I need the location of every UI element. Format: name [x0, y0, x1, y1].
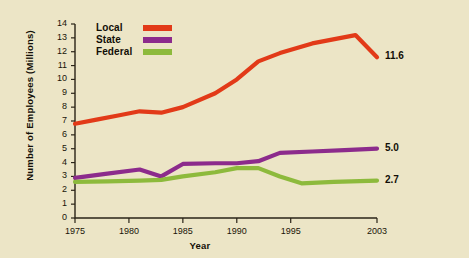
- y-tick-label: 10: [51, 73, 67, 83]
- y-tick-label: 12: [51, 46, 67, 56]
- axis-lines: [75, 24, 377, 218]
- x-tick-label: 1975: [55, 226, 95, 236]
- y-tick-label: 13: [51, 32, 67, 42]
- end-label-state: 5.0: [385, 142, 399, 153]
- y-tick-label: 3: [51, 170, 67, 180]
- chart-figure: Number of Employees (Millions) Year Loca…: [0, 0, 469, 269]
- y-tick-label: 9: [51, 87, 67, 97]
- x-tick-label: 2003: [357, 226, 397, 236]
- axis-ticks: [71, 24, 377, 223]
- y-tick-label: 11: [51, 60, 67, 70]
- x-tick-label: 1980: [109, 226, 149, 236]
- y-tick-label: 6: [51, 129, 67, 139]
- x-tick-label: 1990: [217, 226, 257, 236]
- y-tick-label: 8: [51, 101, 67, 111]
- x-tick-label: 1985: [163, 226, 203, 236]
- x-tick-label: 1995: [271, 226, 311, 236]
- end-label-local: 11.6: [385, 50, 404, 61]
- y-tick-label: 5: [51, 143, 67, 153]
- y-tick-label: 14: [51, 18, 67, 28]
- y-tick-label: 1: [51, 198, 67, 208]
- y-tick-label: 4: [51, 157, 67, 167]
- y-tick-label: 7: [51, 115, 67, 125]
- end-label-federal: 2.7: [385, 174, 399, 185]
- y-tick-label: 0: [51, 212, 67, 222]
- y-tick-label: 2: [51, 184, 67, 194]
- data-series-lines: [75, 35, 377, 183]
